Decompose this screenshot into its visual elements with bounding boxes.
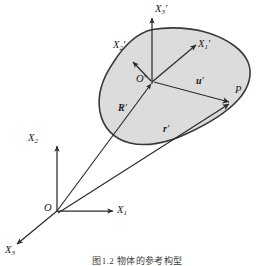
label-axis-x1: X1 [117,205,127,217]
figure-container: O X1 X2 X3 O' X1' X2' X3' R' u' r' P 图1.… [0,0,275,266]
label-origin-global: O [44,203,52,214]
vector-diagram [0,0,275,266]
axis-x3-line [17,211,57,244]
label-axis-x2: X2 [28,133,38,145]
label-axis-x2-prime: X2' [113,40,125,52]
label-vector-u-prime: u' [196,76,204,87]
label-point-p: P [235,85,241,96]
label-axis-x3-prime: X3' [155,4,167,16]
label-vector-r-prime: r' [163,124,169,135]
label-axis-x1-prime: X1' [198,39,210,51]
figure-caption: 图1.2 物体的参考构型 [0,254,275,266]
label-region-r-prime: R' [118,103,127,114]
label-origin-local: O' [136,74,146,85]
